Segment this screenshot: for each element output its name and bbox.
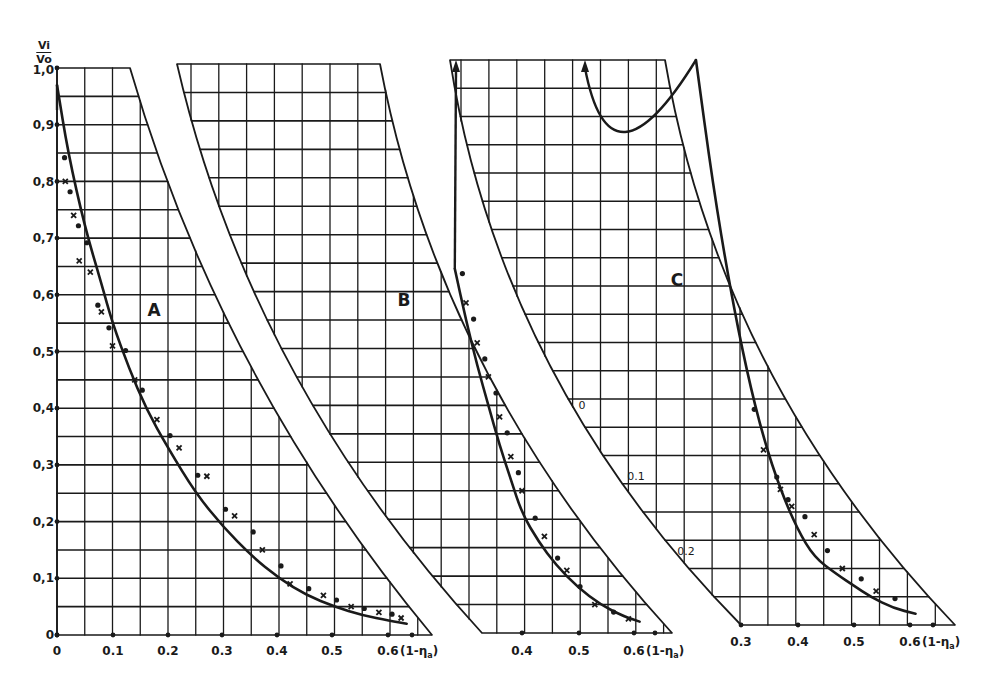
x-tick: 0.4	[266, 645, 287, 657]
y-tick: 0,6	[33, 289, 54, 301]
panel-label-a: A	[147, 302, 160, 319]
x-tick: 0.3	[211, 645, 232, 657]
x-axis-title-a: (1-ηa)	[400, 645, 438, 660]
x-tick: 0.1	[102, 645, 123, 657]
x-tick: 0.4	[787, 636, 808, 648]
y-tick: 0,8	[33, 176, 54, 188]
point-layer	[62, 155, 898, 621]
x-tick: 0.6	[623, 645, 644, 657]
x-tick: 0.5	[321, 645, 342, 657]
x-tick: 0	[53, 645, 61, 657]
x-tick: 0.6	[899, 636, 920, 648]
panel-label-b: B	[398, 292, 411, 309]
y-axis-title-numerator: Vi	[38, 39, 50, 52]
y-tick: 0,1	[33, 572, 54, 584]
panel-c-scale-label: 0.2	[677, 546, 695, 557]
x-tick: 0.2	[157, 645, 178, 657]
panel-label-c: C	[671, 272, 683, 289]
y-tick: 0,9	[33, 119, 54, 131]
panel-c-scale-label: 0.1	[627, 471, 645, 482]
y-tick: 0,4	[33, 402, 54, 414]
x-tick: 0.5	[568, 645, 589, 657]
grid-layer	[55, 60, 955, 637]
y-tick: 0,7	[33, 232, 54, 244]
x-tick: 0.4	[511, 645, 532, 657]
panel-c-scale-label: 0	[579, 400, 586, 411]
x-tick: 0.5	[843, 636, 864, 648]
x-tick: 0.3	[730, 636, 751, 648]
y-tick: 0,3	[33, 459, 54, 471]
y-axis-title: Vi Vo	[36, 40, 51, 65]
x-axis-title-c: (1-ηa)	[922, 636, 960, 651]
x-axis-title-b: (1-ηa)	[646, 645, 684, 660]
x-tick: 0.6	[377, 645, 398, 657]
y-tick: 0,5	[33, 346, 54, 358]
chart-canvas	[0, 0, 998, 685]
y-tick: 1,0	[33, 64, 54, 76]
y-tick: 0	[46, 629, 54, 641]
y-tick: 0,2	[33, 516, 54, 528]
